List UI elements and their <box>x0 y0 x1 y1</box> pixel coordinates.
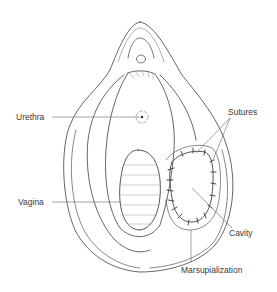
urethral-meatus <box>141 116 144 119</box>
label-vagina: Vagina <box>18 197 44 207</box>
sutures-leader-2 <box>213 118 230 160</box>
labia-majora-outline <box>64 22 233 272</box>
clitoris <box>137 55 146 63</box>
cavity-opening <box>170 151 213 222</box>
anatomy-drawing <box>0 0 277 292</box>
label-marsupialization: Marsupialization <box>181 265 242 275</box>
label-sutures: Sutures <box>228 107 257 117</box>
label-urethra: Urethra <box>16 112 44 122</box>
vestibule <box>106 71 175 237</box>
sutures-leader-1 <box>196 118 230 153</box>
label-cavity: Cavity <box>229 228 253 238</box>
diagram-canvas: Urethra Sutures Vagina Cavity Marsupiali… <box>0 0 277 292</box>
vaginal-opening <box>120 150 161 230</box>
labia-minora-right <box>160 75 196 140</box>
